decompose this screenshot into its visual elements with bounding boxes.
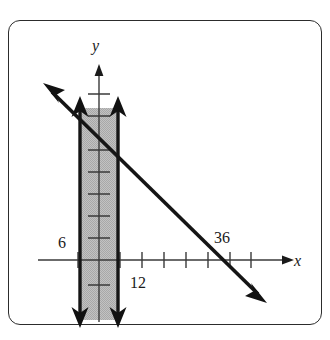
right-boundary-label: 12 <box>130 274 146 291</box>
graph-canvas: x y 6 12 36 <box>0 0 330 340</box>
y-axis-label: y <box>90 37 100 55</box>
figure-root: x y 6 12 36 <box>0 0 330 340</box>
x-axis-label: x <box>293 252 301 269</box>
x-axis <box>38 252 294 268</box>
x-intercept-label: 36 <box>214 229 230 246</box>
left-boundary-label: 6 <box>58 234 66 251</box>
diagonal-boundary-line <box>43 83 267 303</box>
